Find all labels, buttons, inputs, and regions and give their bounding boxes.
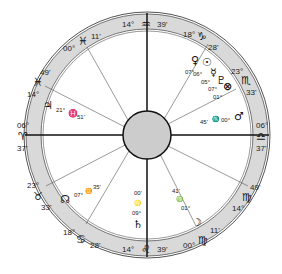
mars-icon: ♂ [234,110,244,123]
mars-min: 45' [200,119,208,125]
moon-sign: ♍ [176,195,184,203]
venus-icon: ♀ [191,54,199,67]
asc-deg: 06° [256,121,268,130]
saturn-deg: 00' [134,190,142,196]
dsc-min: 37' [17,144,28,153]
saturn-min: 09° [132,210,142,216]
moon-deg: 01° [181,205,191,211]
mercury-deg: 05° [201,79,211,85]
aquarius-icon: ♒ [141,18,151,31]
scorpio-icon: ♏ [241,74,251,87]
h3-min: 11' [210,226,220,235]
saturn-icon: ♄ [133,218,143,231]
capricorn-icon: ♑ [197,30,207,43]
h8-deg: 14° [27,90,39,99]
leo-icon: ♌ [141,243,151,256]
part-of-fortune-icon: ⊗ [223,80,232,93]
ic-deg: 14° [122,245,134,254]
virgo-icon-2: ♍ [242,191,252,204]
h11-min: 28' [208,43,219,52]
saturn-sign: ♌ [134,199,142,207]
mars-deg: 00° [221,117,231,123]
chart-wheel: 14° ♒ 39' 14° ♌ 39' 06° ♈ 37' 06° ♎ 37' … [0,0,282,274]
jupiter-deg: 21° [56,107,66,113]
libra-icon: ♎ [256,130,266,143]
h5-min: 28' [90,241,101,250]
h2-deg: 14° [232,204,244,213]
node-min: 35' [93,184,101,190]
asc-min: 37' [256,144,267,153]
pisces-icon: ♓ [78,35,88,48]
aries-icon: ♈ [18,130,28,143]
h12-min: 33' [246,88,257,97]
virgo-icon: ♍ [198,234,208,247]
h9-min: 11' [91,32,101,41]
h9-deg: 00° [63,44,75,53]
node-deg: 07° [74,192,84,198]
moon-icon: ☽ [192,216,202,229]
mc-min: 39' [157,20,168,29]
ic-min: 39' [157,245,168,254]
dsc-deg: 06° [17,121,29,130]
sun-deg: 06° [193,71,203,77]
taurus-icon: ♉ [33,190,43,203]
mars-sign: ♏ [212,115,220,123]
moon-min: 41' [172,188,180,194]
fortune-deg: 01° [213,94,223,100]
pisces-icon-2: ♓ [33,76,43,89]
node-sign: ♊ [85,187,93,195]
h11-deg: 18° [183,30,195,39]
mc-deg: 14° [122,20,134,29]
h3-deg: 00° [183,241,195,250]
jupiter-icon: ♃ [43,99,53,112]
h6-min: 33' [41,203,52,212]
pluto-deg: 07° [208,86,218,92]
center-circle [123,111,171,159]
north-node-icon: ☊ [60,193,70,206]
h5-deg: 18° [63,228,75,237]
h6-deg: 23° [27,181,39,190]
cancer-icon: ♋ [76,233,86,246]
jupiter-min: 51' [77,114,85,120]
